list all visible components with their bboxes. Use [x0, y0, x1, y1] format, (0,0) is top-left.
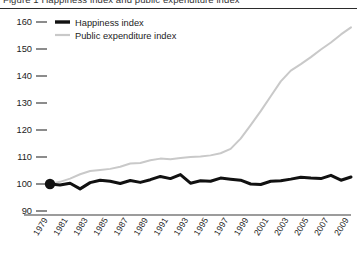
y-tick-label: 100 — [16, 179, 32, 189]
x-tick-label: 1987 — [111, 216, 130, 238]
x-tick-label: 1989 — [131, 216, 150, 238]
x-tick-label: 2005 — [292, 216, 311, 238]
x-tick-label: 1999 — [232, 216, 251, 238]
x-tick-label: 2001 — [252, 216, 271, 238]
series-line-public-expenditure — [50, 27, 351, 184]
chart-figure: Figure 1 Happiness index and public expe… — [0, 0, 357, 263]
x-tick-label: 1993 — [172, 216, 191, 238]
x-tick-label: 1981 — [51, 216, 70, 238]
y-tick-label: 110 — [17, 152, 32, 162]
x-tick-label: 2003 — [272, 216, 291, 238]
y-tick-label: 150 — [16, 44, 32, 54]
x-tick-label: 1995 — [192, 216, 211, 238]
y-tick-label: 120 — [16, 125, 32, 135]
legend-label-happiness: Happiness index — [75, 18, 144, 28]
chart-canvas: 16015014013012011010090 1979198119831985… — [0, 9, 357, 263]
x-tick-label: 2007 — [312, 216, 331, 238]
data-series-group — [50, 27, 351, 188]
origin-dot-icon — [45, 179, 55, 189]
y-tick-label: 130 — [16, 98, 32, 108]
x-tick-label: 1985 — [91, 216, 110, 238]
x-axis-ticks: 1979198119831985198719891991199319951997… — [31, 216, 351, 238]
figure-title: Figure 1 Happiness index and public expe… — [3, 0, 240, 5]
x-tick-label: 2009 — [332, 216, 351, 238]
y-tick-label: 140 — [16, 71, 32, 81]
origin-dot-marker — [45, 179, 55, 189]
x-tick-label: 1979 — [31, 216, 50, 238]
y-axis-ticks: 16015014013012011010090 — [16, 17, 47, 216]
series-line-happiness — [50, 175, 351, 189]
line-chart-svg: 16015014013012011010090 1979198119831985… — [0, 9, 357, 263]
x-tick-label: 1997 — [212, 216, 231, 238]
x-tick-label: 1983 — [71, 216, 90, 238]
x-tick-label: 1991 — [151, 216, 170, 238]
chart-legend: Happiness indexPublic expenditure index — [55, 18, 177, 41]
y-tick-label: 160 — [16, 17, 32, 27]
legend-label-public-expenditure: Public expenditure index — [75, 31, 177, 41]
